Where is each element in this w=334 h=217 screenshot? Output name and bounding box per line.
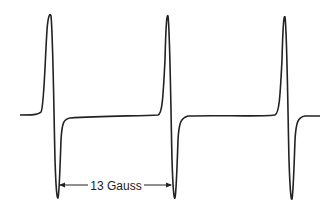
spectrum-trace [20,15,320,200]
splitting-label: 13 Gauss [90,179,141,193]
arrow-right-head-icon [166,183,172,188]
splitting-annotation: 13 Gauss [59,179,172,193]
epr-spectrum: 13 Gauss [0,0,334,217]
